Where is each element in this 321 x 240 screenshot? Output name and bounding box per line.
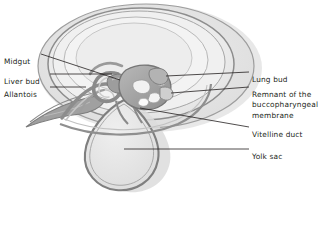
label-yolk-sac: Yolk sac bbox=[252, 152, 282, 163]
label-vitelline-duct: Vitelline duct bbox=[252, 130, 303, 141]
label-midgut: Midgut bbox=[4, 57, 30, 68]
label-liver-bud: Liver bud bbox=[4, 77, 40, 88]
label-lung-bud: Lung bud bbox=[252, 75, 288, 86]
label-allantois: Allantois bbox=[4, 90, 37, 101]
label-remnant-line-2: buccopharyngeal bbox=[252, 100, 318, 111]
label-remnant-line-1: Remnant of the bbox=[252, 90, 311, 101]
buccopharyngeal-membrane bbox=[160, 87, 173, 100]
label-remnant-line-3: membrane bbox=[252, 111, 294, 122]
